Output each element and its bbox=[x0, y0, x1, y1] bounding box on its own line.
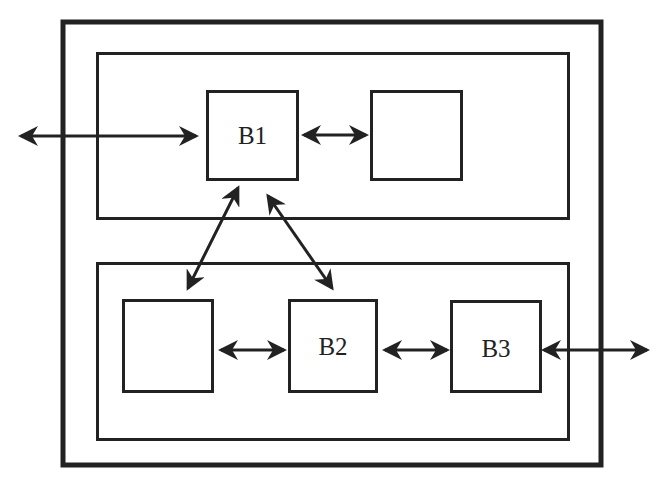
block-bottom-left bbox=[124, 301, 213, 392]
outer-frame bbox=[63, 22, 601, 465]
block-b2-label: B2 bbox=[318, 333, 347, 360]
block-b3-label: B3 bbox=[481, 335, 510, 362]
block-diagram: B1 B2 B3 bbox=[0, 0, 667, 484]
block-b1: B1 bbox=[208, 92, 298, 180]
block-b2: B2 bbox=[290, 301, 377, 392]
block-b3: B3 bbox=[452, 302, 541, 392]
block-top-right bbox=[372, 92, 462, 180]
arrow-b1-to-b2 bbox=[268, 196, 332, 288]
arrow-b1-to-bottom-left bbox=[188, 188, 238, 288]
block-b1-label: B1 bbox=[238, 122, 267, 149]
